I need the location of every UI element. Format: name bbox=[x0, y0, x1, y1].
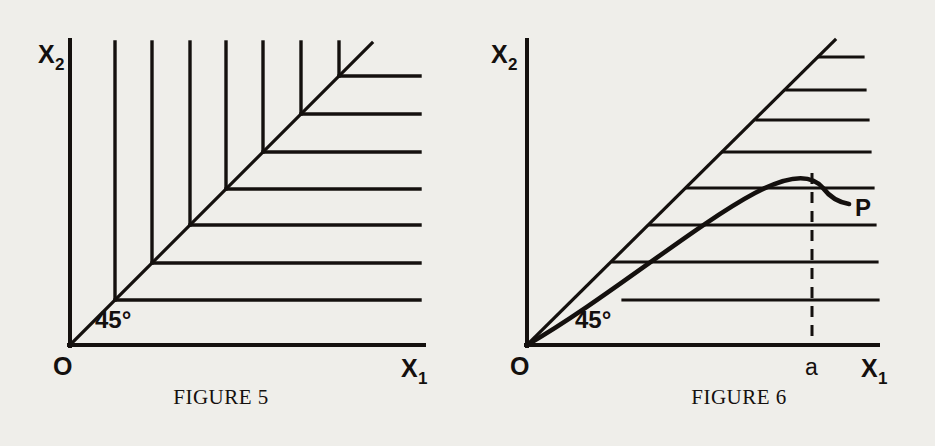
figure-6-y-axis-label: X 2 bbox=[491, 40, 517, 74]
figure-6: X 2 X 1 O 45° a P FIGURE 6 bbox=[465, 0, 935, 446]
figure-5-angle-label: 45° bbox=[95, 306, 131, 333]
figure-5-isoquant-7 bbox=[339, 42, 420, 76]
figures-page: X 2 X 1 O 45° FIGURE 5 bbox=[0, 0, 935, 446]
figure-5-x-axis-label: X 1 bbox=[401, 354, 427, 388]
figure-6-plot: X 2 X 1 O 45° a P bbox=[465, 0, 935, 446]
figure-6-x-axis-label: X 1 bbox=[861, 354, 887, 388]
figure-6-y-axis-label-subscript: 2 bbox=[508, 55, 517, 74]
figure-6-caption: FIGURE 6 bbox=[465, 385, 935, 410]
figure-5-y-axis-label-text: X bbox=[38, 40, 55, 68]
figure-5-x-axis-label-text: X bbox=[401, 354, 418, 382]
figure-5-plot: X 2 X 1 O 45° bbox=[0, 0, 470, 446]
figure-5: X 2 X 1 O 45° FIGURE 5 bbox=[0, 0, 470, 446]
figure-5-y-axis-label-subscript: 2 bbox=[55, 55, 64, 74]
figure-6-point-label-p: P bbox=[855, 194, 871, 221]
figure-6-angle-label: 45° bbox=[575, 306, 611, 333]
figure-5-caption: FIGURE 5 bbox=[0, 385, 470, 410]
figure-5-isoquant-5 bbox=[263, 42, 420, 152]
figure-6-y-axis-label-text: X bbox=[491, 40, 508, 68]
figure-6-origin-label: O bbox=[510, 352, 529, 380]
figure-6-x-axis-label-text: X bbox=[861, 354, 878, 382]
figure-5-y-axis-label: X 2 bbox=[38, 40, 64, 74]
figure-5-origin-label: O bbox=[53, 352, 72, 380]
figure-6-x-tick-label-a: a bbox=[805, 354, 818, 380]
